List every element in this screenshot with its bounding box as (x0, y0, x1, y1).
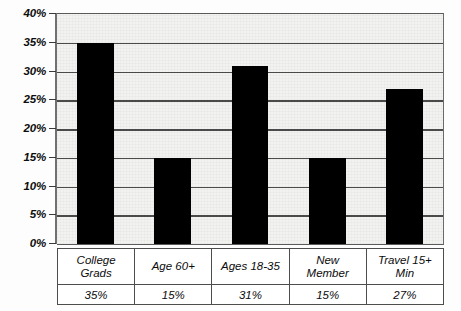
y-axis-tick-label: 35% (0, 36, 46, 47)
category-cell: Travel 15+Min (366, 249, 443, 285)
bar-age-60 (154, 158, 191, 244)
category-cell: Age 60+ (135, 249, 212, 285)
y-axis-tick-label: 40% (0, 8, 46, 19)
category-label-line: College (60, 254, 132, 267)
gridline (57, 43, 443, 45)
y-axis-tick-label: 30% (0, 65, 46, 76)
bar-college-grads (77, 43, 114, 244)
value-cell: 31% (212, 285, 289, 305)
bar-new-member (309, 158, 346, 244)
category-cell: NewMember (289, 249, 366, 285)
category-label-line: Member (292, 267, 364, 280)
table-row-values: 35%15%31%15%27% (58, 285, 444, 305)
value-cell: 15% (135, 285, 212, 305)
value-cell: 27% (366, 285, 443, 305)
y-axis-tick-mark (49, 186, 56, 187)
y-axis-tick-label: 0% (0, 238, 46, 249)
category-label-line: Ages 18-35 (214, 260, 286, 273)
plot-area (57, 13, 444, 245)
y-axis-tick-label: 20% (0, 123, 46, 134)
table-row-categories: CollegeGradsAge 60+Ages 18-35NewMemberTr… (58, 249, 444, 285)
y-axis-tick-mark (49, 71, 56, 72)
category-label-line: Travel 15+ (369, 254, 441, 267)
y-axis-tick-mark (49, 99, 56, 100)
category-label-line: Age 60+ (137, 260, 209, 273)
y-axis-tick-label: 5% (0, 209, 46, 220)
y-axis-tick-mark (49, 243, 56, 244)
data-table: CollegeGradsAge 60+Ages 18-35NewMemberTr… (57, 248, 444, 305)
y-axis-tick-label: 25% (0, 94, 46, 105)
bar-ages-18-35 (232, 66, 269, 244)
y-axis-tick-mark (49, 157, 56, 158)
value-cell: 35% (58, 285, 135, 305)
bar-travel-15-min (386, 89, 423, 244)
category-cell: Ages 18-35 (212, 249, 289, 285)
bar-chart: 40%35%30%25%20%15%10%5%0% CollegeGradsAg… (0, 0, 461, 311)
category-label-line: Grads (60, 267, 132, 280)
value-cell: 15% (289, 285, 366, 305)
y-axis-tick-mark (49, 42, 56, 43)
y-axis-tick-label: 15% (0, 151, 46, 162)
y-axis-tick-mark (49, 214, 56, 215)
category-label-line: New (292, 254, 364, 267)
y-axis-tick-mark (49, 128, 56, 129)
category-cell: CollegeGrads (58, 249, 135, 285)
category-label-line: Min (369, 267, 441, 280)
y-axis-tick-label: 10% (0, 180, 46, 191)
y-axis: 40%35%30%25%20%15%10%5%0% (0, 13, 46, 243)
y-axis-tick-mark (49, 13, 56, 14)
